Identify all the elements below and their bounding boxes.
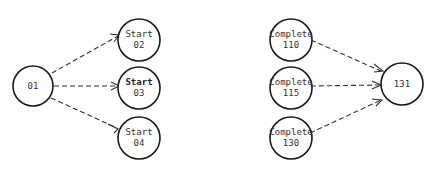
node-label: Start: [125, 77, 152, 87]
edge-110-131: [311, 40, 381, 71]
edges: [51, 34, 383, 133]
edge-130-131: [310, 100, 381, 133]
node-id: 02: [134, 40, 145, 50]
node-start-03: Start 03: [118, 67, 160, 109]
node-id: 130: [283, 138, 299, 148]
arrowhead-icon: [372, 99, 382, 106]
node-start-02: Start 02: [118, 19, 160, 61]
network-diagram: 01 Start 02 Start 03 Start 04 Complete 1…: [0, 0, 432, 171]
node-01: 01: [13, 66, 53, 106]
node-complete-115: Complete 115: [269, 67, 312, 109]
node-label: 01: [28, 81, 39, 91]
arrowhead-icon: [108, 124, 118, 133]
node-id: 04: [134, 138, 145, 148]
edge-115-131: [311, 85, 380, 86]
node-label: 131: [394, 79, 410, 89]
arrowhead-icon: [374, 64, 383, 72]
node-label: Complete: [269, 127, 312, 137]
edge-01-04: [51, 98, 117, 128]
node-label: Complete: [269, 77, 312, 87]
node-complete-130: Complete 130: [269, 117, 312, 159]
node-label: Start: [125, 127, 152, 137]
node-id: 115: [283, 88, 299, 98]
node-label: Complete: [269, 29, 312, 39]
edge-01-02: [52, 36, 118, 73]
node-id: 03: [134, 88, 145, 98]
node-start-04: Start 04: [118, 117, 160, 159]
node-131: 131: [381, 63, 423, 105]
node-complete-110: Complete 110: [269, 19, 312, 61]
node-id: 110: [283, 40, 299, 50]
node-label: Start: [125, 29, 152, 39]
